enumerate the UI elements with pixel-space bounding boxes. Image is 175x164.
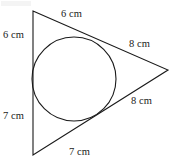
label-bottom-segment: 7 cm [69, 147, 90, 158]
inscribed-circle [32, 37, 116, 121]
triangle-outline [33, 11, 168, 155]
geometry-figure: 6 cm 6 cm 7 cm 8 cm 8 cm 7 cm [0, 0, 175, 164]
label-top-segment: 6 cm [61, 9, 82, 20]
triangle-with-incircle-svg [0, 0, 175, 164]
label-lower-left-segment: 7 cm [3, 111, 24, 122]
label-upper-left-segment: 6 cm [3, 30, 24, 41]
label-lower-right-segment: 8 cm [131, 96, 152, 107]
label-upper-right-segment: 8 cm [129, 39, 150, 50]
